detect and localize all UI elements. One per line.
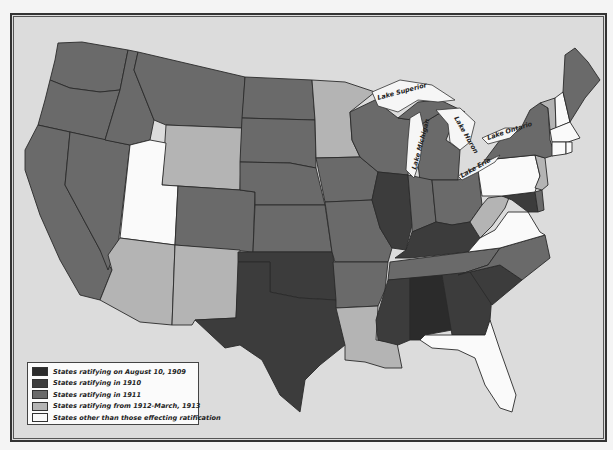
legend-swatch-1910 — [32, 379, 48, 388]
legend-label-1909: States ratifying on August 10, 1909 — [53, 368, 186, 376]
legend-swatch-non-ratifying — [32, 413, 48, 422]
legend-item-1909: States ratifying on August 10, 1909 — [32, 366, 194, 378]
state-rhode-island — [566, 142, 572, 154]
state-arizona — [100, 238, 175, 325]
legend-item-1912-1913: States ratifying from 1912-March, 1913 — [32, 401, 194, 413]
state-maine — [563, 48, 600, 122]
legend-label-1910: States ratifying in 1910 — [53, 379, 141, 387]
state-north-dakota — [242, 77, 315, 120]
state-new-mexico — [172, 245, 240, 325]
state-south-dakota — [240, 118, 316, 168]
legend-swatch-1911 — [32, 390, 48, 399]
state-connecticut — [552, 142, 566, 156]
legend-swatch-1912-1913 — [32, 402, 48, 411]
state-arkansas — [333, 262, 388, 308]
legend-label-non-ratifying: States other than those effecting ratifi… — [53, 414, 221, 422]
state-kansas — [253, 205, 332, 252]
state-wyoming — [162, 125, 242, 190]
legend-item-non-ratifying: States other than those effecting ratifi… — [32, 412, 194, 424]
legend-label-1912-1913: States ratifying from 1912-March, 1913 — [53, 402, 200, 410]
legend-swatch-1909 — [32, 367, 48, 376]
legend-item-1910: States ratifying in 1910 — [32, 378, 194, 390]
legend-label-1911: States ratifying in 1911 — [53, 391, 141, 399]
state-colorado — [175, 186, 255, 252]
map-legend: States ratifying on August 10, 1909 Stat… — [27, 362, 199, 425]
legend-item-1911: States ratifying in 1911 — [32, 389, 194, 401]
